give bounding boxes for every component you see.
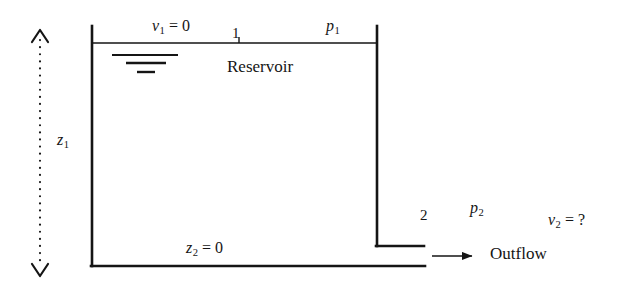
label-station-1: 1 bbox=[232, 26, 240, 41]
operator-z2: = bbox=[202, 239, 211, 256]
operator-v1: = bbox=[169, 17, 178, 34]
z1-arrowhead-down bbox=[32, 264, 48, 276]
reservoir-outflow-diagram: v1 = 0 1 p1 Reservoir z1 z2 = 0 2 p2 v2 … bbox=[0, 0, 626, 288]
symbol-p1: p bbox=[326, 17, 334, 34]
subscript-z1: 1 bbox=[64, 139, 69, 150]
subscript-p1: 1 bbox=[335, 25, 340, 36]
label-station-2: 2 bbox=[420, 208, 428, 223]
label-outflow: Outflow bbox=[490, 245, 547, 262]
operator-v2: = bbox=[565, 211, 574, 228]
label-reservoir: Reservoir bbox=[227, 58, 293, 75]
symbol-p2: p bbox=[470, 199, 478, 216]
label-pressure-2: p2 bbox=[470, 200, 484, 219]
symbol-z2: z bbox=[186, 239, 192, 256]
symbol-v1: v bbox=[152, 17, 159, 34]
label-velocity-2: v2 = ? bbox=[548, 212, 585, 231]
value-v2: ? bbox=[578, 211, 585, 228]
water-level-symbol bbox=[112, 55, 178, 72]
value-v1: 0 bbox=[182, 17, 190, 34]
symbol-v2: v bbox=[548, 211, 555, 228]
value-z2: 0 bbox=[215, 239, 223, 256]
symbol-z1: z bbox=[57, 131, 63, 148]
label-velocity-1: v1 = 0 bbox=[152, 18, 190, 37]
label-elevation-1: z1 bbox=[57, 132, 69, 151]
z1-dimension-arrow bbox=[32, 30, 48, 276]
label-pressure-1: p1 bbox=[326, 18, 340, 37]
label-elevation-2: z2 = 0 bbox=[186, 240, 223, 259]
subscript-p2: 2 bbox=[479, 207, 484, 218]
